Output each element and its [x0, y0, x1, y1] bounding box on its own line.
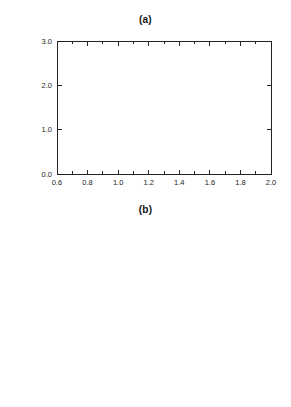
panel-a-plot: 0.60.81.01.21.41.61.82.00.01.02.03.0 [0, 0, 291, 204]
y-tick-label: 2.0 [42, 81, 52, 90]
x-tick-label: 1.2 [143, 178, 153, 187]
x-tick-label: 1.8 [235, 178, 245, 187]
x-tick-label: 1.0 [113, 178, 123, 187]
x-tick-label: 1.6 [205, 178, 215, 187]
x-tick-label: 0.8 [82, 178, 92, 187]
panel-a: (a) 0.60.81.01.21.41.61.82.00.01.02.03.0 [0, 0, 291, 204]
y-tick-label: 3.0 [42, 37, 52, 46]
x-tick-label: 2.0 [266, 178, 276, 187]
panel-b-plot [0, 199, 291, 407]
figure-container: (a) 0.60.81.01.21.41.61.82.00.01.02.03.0… [0, 0, 291, 407]
x-tick-label: 0.6 [52, 178, 62, 187]
plot-frame [57, 41, 271, 174]
panel-b: (b) [0, 199, 291, 407]
y-tick-label: 0.0 [42, 170, 52, 179]
x-tick-label: 1.4 [174, 178, 184, 187]
y-tick-label: 1.0 [42, 125, 52, 134]
